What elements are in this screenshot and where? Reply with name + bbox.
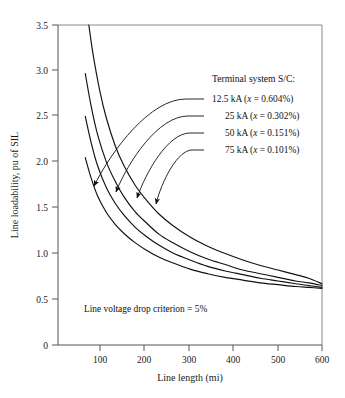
y-tick-label: 0 (43, 341, 48, 351)
y-tick-label: 1.5 (36, 203, 48, 213)
legend-item-value: 25 kA (225, 111, 250, 121)
legend-item-value: 75 kA (225, 145, 250, 155)
legend-item: 75 kA (x = 0.101%) (225, 145, 299, 156)
y-axis-title: Line loadability, pu of SIL (9, 132, 20, 238)
legend-item-expression: = 0.101%) (257, 145, 299, 156)
x-axis-title: Line length (mi) (157, 372, 223, 384)
y-tick-label: 2.0 (36, 157, 48, 167)
y-tick-label: 2.5 (36, 111, 48, 121)
figure-container: 3.5 3.0 2.5 2.0 1.5 1.0 0.5 0 100 200 30… (0, 0, 345, 398)
x-tick-label: 500 (271, 355, 286, 365)
y-tick-label: 3.5 (36, 21, 48, 31)
x-tick-label: 200 (137, 355, 152, 365)
legend-item-value: 12.5 kA (212, 94, 244, 104)
legend-item: 50 kA (x = 0.151%) (225, 128, 299, 139)
x-tick-label: 100 (93, 355, 108, 365)
legend-item-value: 50 kA (225, 128, 250, 138)
legend-item-expression: = 0.302%) (257, 111, 299, 122)
legend-item: 12.5 kA (x = 0.604%) (212, 94, 293, 105)
y-tick-label: 1.0 (36, 249, 48, 259)
x-tick-label: 400 (226, 355, 241, 365)
x-tick-label: 300 (182, 355, 197, 365)
legend-item: 25 kA (x = 0.302%) (225, 111, 299, 122)
x-tick-label: 600 (315, 355, 330, 365)
line-chart: 3.5 3.0 2.5 2.0 1.5 1.0 0.5 0 100 200 30… (0, 0, 345, 398)
chart-background (0, 0, 345, 398)
y-tick-label: 0.5 (36, 295, 48, 305)
y-tick-label: 3.0 (36, 66, 48, 76)
legend-item-expression: = 0.151%) (257, 128, 299, 139)
legend-title: Terminal system S/C: (212, 73, 295, 84)
legend-item-expression: = 0.604%) (251, 94, 293, 105)
criterion-annotation: Line voltage drop criterion = 5% (84, 304, 207, 314)
